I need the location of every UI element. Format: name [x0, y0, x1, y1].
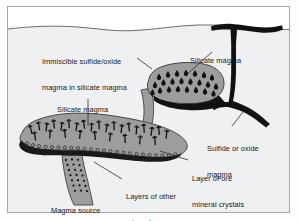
label-line-1: Silicate magma: [190, 57, 241, 66]
label-line-1: Magma source: [51, 207, 100, 216]
label-line-1: Layer of ore: [192, 175, 244, 184]
label-line-1: Immiscible sulfide/oxide: [42, 58, 127, 67]
label-line-2: mineral crystals: [192, 201, 244, 210]
label-layers-of-other-minerals: Layers of other minerals: [126, 176, 176, 221]
label-line-1: Silicate magma: [57, 106, 108, 115]
label-silicate-magma-upper: Silicate magma: [190, 40, 241, 83]
figure-root: Immiscible sulfide/oxide magma in silica…: [0, 0, 299, 221]
label-line-1: Sulfide or oxide: [207, 145, 259, 154]
label-silicate-magma-lower: Silicate magma: [57, 89, 108, 132]
label-layer-of-ore-mineral-crystals: Layer of ore mineral crystals: [192, 158, 244, 221]
label-magma-source: Magma source: [51, 190, 100, 221]
label-line-2: minerals: [126, 219, 176, 221]
label-line-1: Layers of other: [126, 193, 176, 202]
